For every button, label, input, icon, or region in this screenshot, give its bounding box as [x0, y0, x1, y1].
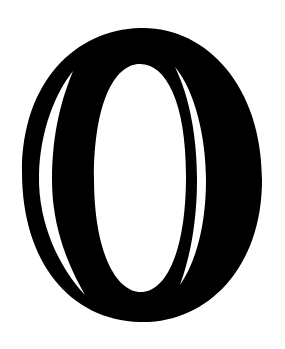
letter-o-graphic: [0, 0, 285, 349]
decorative-letter-o: O: [0, 0, 285, 349]
